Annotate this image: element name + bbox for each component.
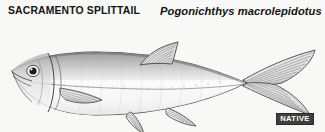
dorsal-fin	[140, 42, 178, 65]
fish-eye	[27, 65, 39, 76]
common-name-label: SACRAMENTO SPLITTAIL	[8, 5, 140, 16]
pelvic-fin	[126, 112, 144, 132]
status-badge: NATIVE	[276, 113, 314, 125]
anal-fin	[166, 108, 196, 126]
caudal-fin	[243, 50, 315, 115]
scientific-name-label: Pogonichthys macrolepidotus	[160, 5, 322, 17]
species-plate: SACRAMENTO SPLITTAIL Pogonichthys macrol…	[0, 0, 325, 132]
status-badge-label: NATIVE	[280, 115, 310, 123]
